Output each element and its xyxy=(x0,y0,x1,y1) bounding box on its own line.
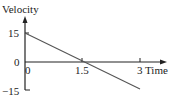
velocity-time-chart: Velocity 15 0 −15 0 1.5 3 Time xyxy=(0,0,170,100)
y-tick-label-neg15: −15 xyxy=(2,85,20,97)
x-axis-label: Time xyxy=(145,64,168,76)
y-tick-label-0: 0 xyxy=(14,56,20,68)
y-axis-arrow-icon xyxy=(23,16,28,23)
y-axis-label: Velocity xyxy=(2,3,39,15)
x-tick-label-3: 3 xyxy=(137,64,143,76)
y-tick-label-15: 15 xyxy=(8,27,20,39)
x-tick-label-0: 0 xyxy=(25,64,31,76)
x-tick-label-1.5: 1.5 xyxy=(75,64,89,76)
chart-canvas: Velocity 15 0 −15 0 1.5 3 Time xyxy=(0,0,170,100)
velocity-line xyxy=(25,33,140,89)
